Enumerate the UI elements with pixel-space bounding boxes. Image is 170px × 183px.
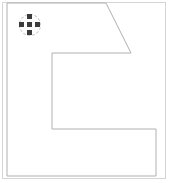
- move-pan-icon[interactable]: [19, 14, 41, 36]
- move-handle-nub-up[interactable]: [27, 14, 32, 19]
- move-handle-nub-right[interactable]: [35, 22, 40, 27]
- move-handle-nub-center[interactable]: [27, 22, 32, 27]
- shape-canvas-app: [0, 0, 170, 183]
- move-handle-nub-left[interactable]: [19, 22, 24, 27]
- move-handle-nub-down[interactable]: [27, 30, 32, 35]
